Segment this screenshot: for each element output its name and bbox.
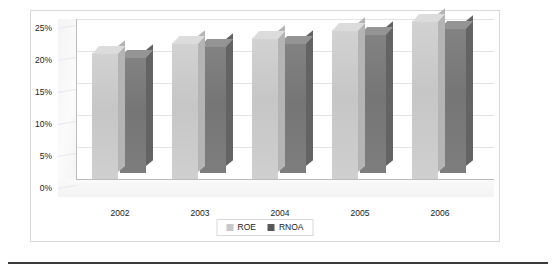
bar-group-2004 — [252, 19, 324, 179]
y-axis-tick-label: 5% — [12, 152, 52, 161]
bar-side-face — [278, 25, 285, 172]
chart-legend: ROERNOA — [217, 219, 314, 236]
footer-rule — [8, 262, 548, 264]
legend-label: ROE — [238, 223, 256, 232]
bar-ROE-2004 — [252, 38, 278, 179]
chart-panel: 25%20%15%10%5%0% 20022003200420052006 RO… — [30, 10, 500, 242]
plot-area: 25%20%15%10%5%0% 20022003200420052006 — [58, 19, 494, 197]
bar-ROE-2005 — [332, 30, 358, 179]
bar-group-2002 — [92, 19, 164, 179]
y-axis-tick-label: 0% — [12, 184, 52, 193]
bar-ROE-2006 — [412, 21, 438, 179]
bar-group-2006 — [412, 19, 484, 179]
chart-floor — [58, 179, 494, 197]
bar-side-face — [118, 40, 125, 172]
legend-label: RNOA — [279, 223, 304, 232]
bar-side-face — [466, 15, 473, 166]
bar-front-face — [172, 43, 198, 179]
x-axis-tick-label: 2004 — [250, 209, 310, 218]
bar-side-face — [386, 21, 393, 166]
x-axis-tick-label: 2003 — [170, 209, 230, 218]
bar-group-2003 — [172, 19, 244, 179]
legend-swatch-icon — [227, 224, 234, 231]
y-axis-tick-label: 10% — [12, 120, 52, 129]
y-axis-tick-label: 20% — [12, 56, 52, 65]
bar-front-face — [412, 21, 438, 179]
bar-side-face — [306, 30, 313, 166]
legend-item-RNOA[interactable]: RNOA — [268, 223, 304, 232]
bar-front-face — [332, 30, 358, 179]
x-axis-tick-label: 2006 — [410, 209, 470, 218]
x-axis-line — [76, 179, 494, 180]
chart-left-wall — [58, 19, 77, 197]
bar-group-2005 — [332, 19, 404, 179]
figure: 25%20%15%10%5%0% 20022003200420052006 RO… — [0, 0, 556, 274]
bar-side-face — [226, 33, 233, 166]
x-axis-tick-label: 2005 — [330, 209, 390, 218]
bar-front-face — [92, 53, 118, 179]
bar-side-face — [438, 8, 445, 172]
bar-side-face — [358, 17, 365, 172]
legend-item-ROE[interactable]: ROE — [227, 223, 256, 232]
x-axis-tick-label: 2002 — [90, 209, 150, 218]
bar-front-face — [252, 38, 278, 179]
bar-side-face — [198, 30, 205, 172]
legend-swatch-icon — [268, 224, 275, 231]
bar-side-face — [146, 44, 153, 166]
y-axis-tick-label: 25% — [12, 24, 52, 33]
bar-ROE-2003 — [172, 43, 198, 179]
y-axis-tick-label: 15% — [12, 88, 52, 97]
y-axis-line — [76, 19, 77, 180]
bar-ROE-2002 — [92, 53, 118, 179]
